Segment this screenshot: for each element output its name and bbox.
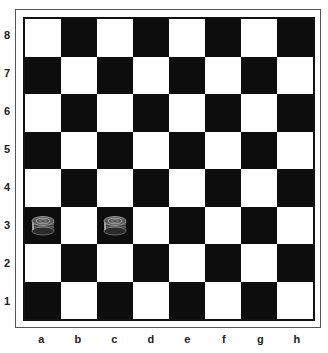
file-label: a xyxy=(31,333,51,345)
square-h7[interactable] xyxy=(277,57,313,95)
square-f3[interactable] xyxy=(205,207,241,245)
square-e6[interactable] xyxy=(169,94,205,132)
rank-label: 3 xyxy=(0,219,14,231)
rank-label: 5 xyxy=(0,143,14,155)
file-label: c xyxy=(104,333,124,345)
square-e1[interactable] xyxy=(169,282,205,320)
square-c6[interactable] xyxy=(97,94,133,132)
square-g8[interactable] xyxy=(241,19,277,57)
rank-label: 7 xyxy=(0,67,14,79)
square-h4[interactable] xyxy=(277,169,313,207)
square-c2[interactable] xyxy=(97,244,133,282)
square-a4[interactable] xyxy=(25,169,61,207)
rank-label: 8 xyxy=(0,29,14,41)
file-label: e xyxy=(177,333,197,345)
square-d2[interactable] xyxy=(133,244,169,282)
square-b6[interactable] xyxy=(61,94,97,132)
square-c5[interactable] xyxy=(97,132,133,170)
square-e3[interactable] xyxy=(169,207,205,245)
square-g4[interactable] xyxy=(241,169,277,207)
square-a1[interactable] xyxy=(25,282,61,320)
square-f5[interactable] xyxy=(205,132,241,170)
square-f1[interactable] xyxy=(205,282,241,320)
rank-label: 1 xyxy=(0,295,14,307)
file-label: h xyxy=(287,333,307,345)
square-c1[interactable] xyxy=(97,282,133,320)
square-h3[interactable] xyxy=(277,207,313,245)
square-e5[interactable] xyxy=(169,132,205,170)
square-f8[interactable] xyxy=(205,19,241,57)
square-c8[interactable] xyxy=(97,19,133,57)
square-d8[interactable] xyxy=(133,19,169,57)
square-b8[interactable] xyxy=(61,19,97,57)
square-g5[interactable] xyxy=(241,132,277,170)
square-d5[interactable] xyxy=(133,132,169,170)
square-h1[interactable] xyxy=(277,282,313,320)
square-h5[interactable] xyxy=(277,132,313,170)
square-b2[interactable] xyxy=(61,244,97,282)
square-h8[interactable] xyxy=(277,19,313,57)
square-e8[interactable] xyxy=(169,19,205,57)
square-d6[interactable] xyxy=(133,94,169,132)
square-e2[interactable] xyxy=(169,244,205,282)
checker-piece-icon[interactable] xyxy=(102,214,128,236)
square-a5[interactable] xyxy=(25,132,61,170)
square-a7[interactable] xyxy=(25,57,61,95)
square-a3[interactable] xyxy=(25,207,61,245)
square-g2[interactable] xyxy=(241,244,277,282)
rank-label: 6 xyxy=(0,105,14,117)
checker-piece-icon[interactable] xyxy=(30,214,56,236)
square-b3[interactable] xyxy=(61,207,97,245)
square-a6[interactable] xyxy=(25,94,61,132)
square-f4[interactable] xyxy=(205,169,241,207)
square-f7[interactable] xyxy=(205,57,241,95)
file-label: g xyxy=(250,333,270,345)
square-b4[interactable] xyxy=(61,169,97,207)
square-c4[interactable] xyxy=(97,169,133,207)
square-g1[interactable] xyxy=(241,282,277,320)
square-c3[interactable] xyxy=(97,207,133,245)
square-g6[interactable] xyxy=(241,94,277,132)
file-label: b xyxy=(68,333,88,345)
rank-label: 4 xyxy=(0,181,14,193)
square-b1[interactable] xyxy=(61,282,97,320)
file-label: f xyxy=(214,333,234,345)
square-f6[interactable] xyxy=(205,94,241,132)
square-e4[interactable] xyxy=(169,169,205,207)
square-d7[interactable] xyxy=(133,57,169,95)
file-label: d xyxy=(141,333,161,345)
square-b5[interactable] xyxy=(61,132,97,170)
square-h6[interactable] xyxy=(277,94,313,132)
square-a8[interactable] xyxy=(25,19,61,57)
square-f2[interactable] xyxy=(205,244,241,282)
square-e7[interactable] xyxy=(169,57,205,95)
rank-label: 2 xyxy=(0,257,14,269)
square-d4[interactable] xyxy=(133,169,169,207)
square-a2[interactable] xyxy=(25,244,61,282)
square-d3[interactable] xyxy=(133,207,169,245)
square-c7[interactable] xyxy=(97,57,133,95)
square-b7[interactable] xyxy=(61,57,97,95)
square-g7[interactable] xyxy=(241,57,277,95)
square-g3[interactable] xyxy=(241,207,277,245)
square-d1[interactable] xyxy=(133,282,169,320)
square-h2[interactable] xyxy=(277,244,313,282)
checkers-board[interactable] xyxy=(23,17,315,321)
